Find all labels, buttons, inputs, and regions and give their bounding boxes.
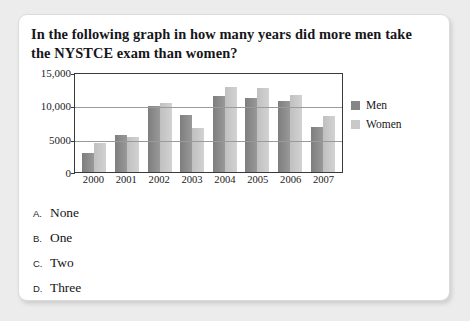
legend-swatch-men xyxy=(351,101,360,110)
bar-women-2003 xyxy=(192,128,204,172)
legend-item-women: Women xyxy=(351,118,401,130)
option-label: Three xyxy=(50,280,81,296)
bar-women-2001 xyxy=(127,137,139,172)
option-label: One xyxy=(50,230,72,246)
x-axis-tick-label: 2001 xyxy=(110,174,143,185)
y-axis-tick-label: 15,000 xyxy=(41,67,71,79)
y-axis-tick xyxy=(71,107,75,108)
bar-group xyxy=(143,74,176,172)
bar-group xyxy=(306,74,339,172)
y-axis-tick-label: 10,000 xyxy=(41,100,71,112)
answer-option-b[interactable]: B.One xyxy=(33,230,333,255)
answer-option-a[interactable]: A.None xyxy=(33,205,333,230)
bar-chart: 0500010,00015,000 2000200120022003200420… xyxy=(25,73,425,195)
bar-group xyxy=(78,74,111,172)
legend-label: Men xyxy=(366,99,387,111)
bar-women-2006 xyxy=(290,95,302,172)
option-letter: C. xyxy=(33,258,50,269)
question-card: In the following graph in how many years… xyxy=(18,14,450,301)
bar-groups xyxy=(75,74,342,172)
answer-options: A.NoneB.OneC.TwoD.Three xyxy=(33,205,333,305)
bar-men-2006 xyxy=(278,101,290,172)
bar-group xyxy=(274,74,307,172)
bar-group xyxy=(176,74,209,172)
bar-men-2005 xyxy=(245,98,257,172)
option-label: Two xyxy=(50,255,74,271)
x-axis-tick-label: 2003 xyxy=(176,174,209,185)
bar-women-2007 xyxy=(323,116,335,172)
x-axis-tick-label: 2005 xyxy=(241,174,274,185)
y-axis-labels: 0500010,00015,000 xyxy=(25,73,71,173)
bar-men-2000 xyxy=(82,153,94,172)
option-label: None xyxy=(50,205,79,221)
bar-group xyxy=(209,74,242,172)
answer-option-c[interactable]: C.Two xyxy=(33,255,333,280)
gridline xyxy=(75,107,342,108)
x-axis-tick-label: 2000 xyxy=(77,174,110,185)
gridline xyxy=(75,141,342,142)
legend-item-men: Men xyxy=(351,99,401,111)
page-background: In the following graph in how many years… xyxy=(0,0,470,321)
bar-group xyxy=(111,74,144,172)
x-axis-tick-label: 2002 xyxy=(143,174,176,185)
bar-group xyxy=(241,74,274,172)
option-letter: D. xyxy=(33,283,50,294)
bar-men-2003 xyxy=(180,115,192,172)
bar-women-2005 xyxy=(257,88,269,172)
y-axis-tick xyxy=(71,74,75,75)
bar-women-2000 xyxy=(94,143,106,172)
chart-legend: MenWomen xyxy=(351,99,401,137)
legend-swatch-women xyxy=(351,120,360,129)
y-axis-tick-label: 5000 xyxy=(49,134,71,146)
bar-women-2002 xyxy=(160,103,172,172)
x-axis-tick-label: 2004 xyxy=(209,174,242,185)
x-axis-tick-label: 2006 xyxy=(274,174,307,185)
bar-men-2007 xyxy=(311,127,323,172)
x-axis-tick-label: 2007 xyxy=(307,174,340,185)
y-axis-tick xyxy=(71,141,75,142)
legend-label: Women xyxy=(366,118,401,130)
bar-men-2002 xyxy=(148,106,160,172)
x-axis-labels: 20002001200220032004200520062007 xyxy=(74,174,343,185)
bar-women-2004 xyxy=(225,87,237,172)
option-letter: B. xyxy=(33,233,50,244)
option-letter: A. xyxy=(33,208,50,219)
question-text: In the following graph in how many years… xyxy=(31,25,431,63)
plot-area xyxy=(74,73,343,173)
answer-option-d[interactable]: D.Three xyxy=(33,280,333,305)
